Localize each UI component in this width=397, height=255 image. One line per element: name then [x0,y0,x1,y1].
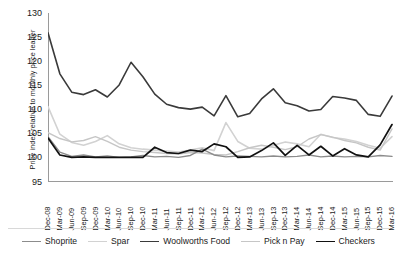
x-tick-label: Sep-12 [222,206,229,230]
x-tick-label: Dec-14 [328,206,335,230]
legend-swatch [241,241,260,242]
x-axis-tick-labels: Dec-08Mar-09Jun-09Sep-09Dec-09Mar-10Jun-… [48,184,393,230]
x-tick-label: Sep-11 [174,207,181,230]
x-tick-label: Dec-15 [376,206,383,230]
series-line-woolworths-food [48,33,392,117]
x-tick-label: Dec-10 [139,206,146,230]
x-tick-label: Mar-09 [56,207,63,230]
chart-figure: Price index relative to monthly price le… [0,0,397,255]
x-tick-label: Mar-10 [103,207,110,230]
legend-item-pick-n-pay[interactable]: Pick n Pay [241,236,305,246]
x-tick-label: Jun-15 [352,207,359,230]
legend-label: Pick n Pay [264,236,305,246]
x-tick-label: Jun-11 [162,208,169,230]
legend-swatch [140,241,159,242]
x-tick-label: Jun-14 [305,207,312,230]
x-tick-label: Sep-13 [269,206,276,230]
x-tick-label: Jun-13 [257,207,264,230]
x-tick-label: Sep-09 [79,206,86,230]
legend-label: Shoprite [45,236,77,246]
y-tick-label: 115 [16,81,42,90]
x-tick-label: Mar-14 [293,207,300,230]
legend-swatch [316,241,335,242]
x-tick-label: Mar-16 [388,207,395,230]
y-tick-label: 105 [16,129,42,138]
x-tick-label: Mar-15 [340,207,347,230]
x-tick-label: Mar-13 [245,207,252,230]
x-tick-label: Dec-08 [44,206,51,230]
legend-item-checkers[interactable]: Checkers [316,236,375,246]
x-tick-label: Dec-13 [281,206,288,230]
series-line-checkers [48,125,392,158]
y-tick-label: 130 [16,9,42,18]
y-axis-tick-labels: 13012512011511010510095 [14,0,42,190]
x-tick-label: Dec-12 [234,206,241,230]
x-tick-label: Jun-12 [210,207,217,230]
x-tick-label: Dec-09 [91,206,98,230]
x-tick-label: Sep-15 [364,206,371,230]
x-tick-label: Sep-10 [127,206,134,230]
plot-area [48,13,393,182]
y-tick-label: 100 [16,153,42,162]
legend-label: Checkers [339,236,375,246]
legend-label: Spar [111,236,129,246]
legend-swatch [88,241,107,242]
chart-legend: ShopriteSparWoolworths FoodPick n PayChe… [0,232,397,250]
y-tick-label: 125 [16,33,42,42]
legend-item-shoprite[interactable]: Shoprite [22,236,77,246]
y-tick-label: 110 [16,105,42,114]
x-tick-label: Mar-12 [198,207,205,230]
legend-item-spar[interactable]: Spar [88,236,129,246]
x-tick-label: Jun-09 [68,207,75,230]
x-tick-label: Dec-11 [186,207,193,230]
y-tick-label: 95 [16,178,42,187]
x-tick-label: Mar-11 [151,207,158,230]
legend-label: Woolworths Food [163,236,230,246]
series-canvas [48,13,393,182]
x-tick-label: Jun-10 [115,207,122,230]
legend-divider [8,228,389,229]
legend-item-woolworths-food[interactable]: Woolworths Food [140,236,230,246]
legend-swatch [22,241,41,242]
x-tick-label: Sep-14 [317,206,324,230]
y-tick-label: 120 [16,57,42,66]
